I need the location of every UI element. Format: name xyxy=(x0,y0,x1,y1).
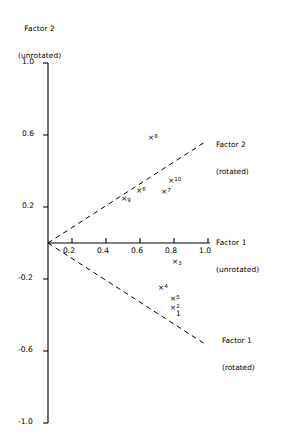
y-tick-label-5: -0.6 xyxy=(18,346,33,355)
y-tick-label-4: -0.2 xyxy=(18,274,33,283)
y-tick-label-2: 0.6 xyxy=(22,130,34,139)
data-point-10: ×10 xyxy=(168,176,181,185)
data-point-1: 1 xyxy=(176,310,181,319)
y-axis-ticks xyxy=(43,63,48,423)
data-point-9-label: 9 xyxy=(127,197,131,203)
data-point-3-label: 3 xyxy=(178,260,182,266)
x-tick-label-1: 0.2 xyxy=(63,247,75,256)
x-axis-title-line1: Factor 1 xyxy=(216,239,259,248)
data-point-7: ×7 xyxy=(161,187,171,196)
x-tick-label-4: 0.8 xyxy=(165,247,177,256)
data-point-9: ×9 xyxy=(121,195,131,204)
data-point-4-label: 4 xyxy=(164,283,168,289)
data-point-6-label: 6 xyxy=(142,186,146,192)
data-point-1-label: 1 xyxy=(176,309,181,318)
y-axis-title-line1: Factor 2 xyxy=(18,25,61,34)
factor-1-rotated-line2: (rotated) xyxy=(222,364,255,373)
data-point-6: ×6 xyxy=(136,186,146,195)
x-tick-label-5: 1.0 xyxy=(199,247,211,256)
factor-1-rotated-label: Factor 1 (rotated) xyxy=(222,320,255,381)
y-tick-label-6: -1.0 xyxy=(18,418,33,427)
data-point-8-label: 8 xyxy=(154,133,158,139)
factor-1-rotated-line1: Factor 1 xyxy=(222,337,255,346)
data-point-4: ×4 xyxy=(158,283,168,292)
factor-2-rotated-line1: Factor 2 xyxy=(216,141,249,150)
y-tick-label-1: 1.0 xyxy=(22,58,34,67)
data-point-8: ×8 xyxy=(148,133,158,142)
data-point-7-label: 7 xyxy=(167,187,171,193)
factor-2-rotated-line2: (rotated) xyxy=(216,168,249,177)
data-point-3: ×3 xyxy=(172,258,182,267)
x-axis-title: Factor 1 (unrotated) xyxy=(216,222,259,283)
data-point-10-label: 10 xyxy=(174,176,181,182)
y-tick-label-3: 0.2 xyxy=(22,202,34,211)
x-axis-title-line2: (unrotated) xyxy=(216,266,259,275)
data-point-5-label: 5 xyxy=(176,294,180,300)
factor-2-rotated-label: Factor 2 (rotated) xyxy=(216,124,249,185)
x-axis-ticks xyxy=(72,238,208,243)
x-tick-label-2: 0.4 xyxy=(97,247,109,256)
x-tick-label-3: 0.6 xyxy=(131,247,143,256)
factor-2-rotated-axis-line xyxy=(48,142,205,243)
